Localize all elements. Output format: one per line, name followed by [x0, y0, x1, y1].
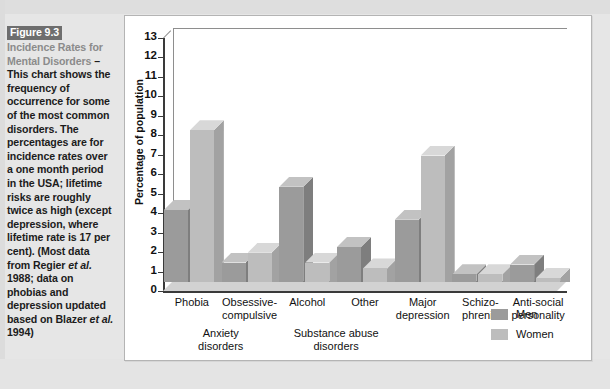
y-tick-6: 6	[135, 166, 157, 178]
caption-body-3: 1994)	[7, 326, 34, 338]
bar-top-face	[536, 268, 570, 278]
paper-edge-left	[0, 0, 5, 389]
y-tick-10: 10	[135, 88, 157, 100]
bar-front-face	[510, 265, 534, 283]
figure-number-tag: Figure 9.3	[7, 26, 62, 40]
group-label-1: Substance abusedisorders	[278, 327, 393, 352]
bar-men-0	[164, 210, 188, 282]
bar-front-face	[190, 130, 214, 282]
legend-label-men: Men	[516, 308, 537, 320]
paper-edge-top	[0, 0, 610, 14]
bar-men-1	[222, 263, 246, 282]
bar-front-face	[478, 274, 502, 282]
bar-top-face	[248, 243, 282, 253]
bar-top-face	[279, 177, 313, 187]
bar-front-face	[421, 156, 445, 283]
y-tick-12: 12	[135, 49, 157, 61]
bar-women-6	[536, 278, 560, 282]
y-tick-5: 5	[135, 186, 157, 198]
bar-top-face	[510, 255, 544, 265]
bar-women-2	[305, 263, 329, 282]
bar-women-0	[190, 130, 214, 282]
bar-front-face	[452, 274, 476, 282]
bar-men-3	[337, 247, 361, 282]
caption-italic-2: et al.	[90, 313, 114, 325]
y-tick-0: 0	[135, 283, 157, 295]
y-tick-7: 7	[135, 147, 157, 159]
bar-men-4	[395, 220, 419, 282]
bar-top-face	[421, 146, 455, 156]
bar-women-3	[363, 268, 387, 282]
y-tick-4: 4	[135, 205, 157, 217]
bar-men-6	[510, 265, 534, 283]
bar-front-face	[164, 210, 188, 282]
page-background: Figure 9.3 Incidence Rates for Mental Di…	[0, 0, 610, 389]
y-tick-2: 2	[135, 244, 157, 256]
caption-dash: –	[91, 55, 100, 67]
bar-men-5	[452, 274, 476, 282]
bar-women-5	[478, 274, 502, 282]
paper-edge-bottom	[0, 359, 610, 389]
y-tick-3: 3	[135, 225, 157, 237]
caption-lead: Incidence Rates for Mental Disorders	[7, 41, 103, 67]
bar-women-1	[248, 253, 272, 282]
bar-front-face	[248, 253, 272, 282]
caption-body: This chart shows the frequency of occurr…	[7, 68, 111, 270]
y-tick-9: 9	[135, 108, 157, 120]
y-tick-13: 13	[135, 30, 157, 42]
bar-top-face	[337, 237, 371, 247]
legend-swatch-women	[491, 329, 508, 340]
bar-top-face	[478, 264, 512, 274]
bar-men-2	[279, 187, 303, 282]
bar-women-4	[421, 156, 445, 283]
group-label-0: Anxietydisorders	[163, 327, 278, 352]
legend-item-women: Women	[491, 326, 577, 342]
bar-chart: Percentage of population 012345678910111…	[125, 16, 591, 360]
chart-legend: MenWomen	[491, 306, 577, 346]
bar-front-face	[363, 268, 387, 282]
bar-front-face	[536, 278, 560, 282]
bar-front-face	[395, 220, 419, 282]
y-tick-11: 11	[135, 69, 157, 81]
legend-label-women: Women	[516, 328, 554, 340]
bar-series-container	[163, 28, 567, 292]
chart-panel: Percentage of population 012345678910111…	[124, 15, 592, 361]
bar-front-face	[337, 247, 361, 282]
y-tick-1: 1	[135, 264, 157, 276]
bar-side-face	[445, 146, 455, 283]
bar-top-face	[305, 253, 339, 263]
legend-swatch-men	[491, 309, 508, 320]
bar-front-face	[222, 263, 246, 282]
bar-top-face	[190, 120, 224, 130]
caption-italic-1: et al.	[68, 259, 92, 271]
y-tick-8: 8	[135, 127, 157, 139]
bar-front-face	[305, 263, 329, 282]
legend-item-men: Men	[491, 306, 577, 322]
figure-caption: Figure 9.3 Incidence Rates for Mental Di…	[7, 26, 114, 340]
bar-front-face	[279, 187, 303, 282]
bar-top-face	[363, 258, 397, 268]
